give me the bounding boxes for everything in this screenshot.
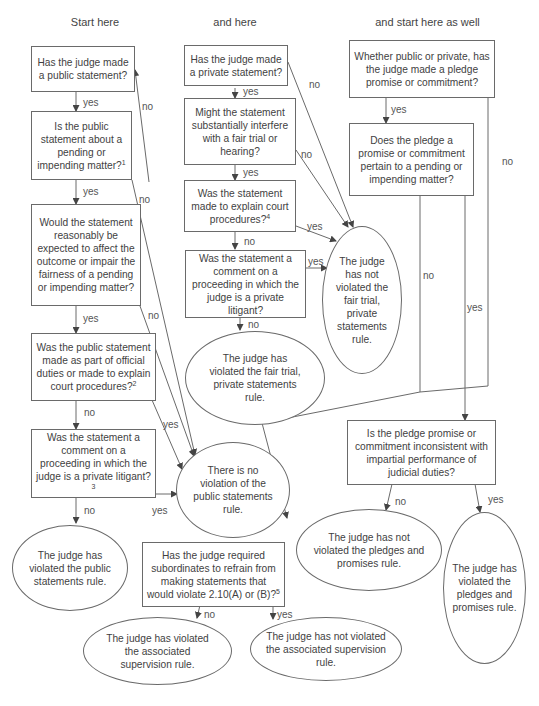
edge-label-yes: yes — [467, 302, 483, 313]
edge-label-no: no — [139, 194, 150, 205]
edge-label-yes: yes — [307, 221, 323, 232]
node-text: The judge has not violated the pledges a… — [313, 531, 425, 570]
node-text: Is the pledge promise or commitment inco… — [352, 427, 491, 479]
node-text: The judge has violated the pledges and p… — [452, 562, 517, 614]
edge-label-no: no — [142, 101, 153, 112]
supervision-violated-outcome: The judge has violated the associated su… — [83, 617, 232, 685]
node-text: Has the judge made a private statement? — [189, 53, 283, 79]
private-q2-interfere-fair-trial: Might the statement substantially interf… — [184, 98, 296, 165]
private-not-violated-outcome: The judge has not violated the fair tria… — [322, 226, 402, 374]
node-text: Is the public statement about a pending … — [36, 120, 127, 172]
edge-label-yes: yes — [308, 256, 324, 267]
supervision-q1-subordinates: Has the judge required subordinates to r… — [142, 542, 285, 607]
private-q1-made-private-statement: Has the judge made a private statement? — [184, 45, 288, 86]
public-q1-made-public-statement: Has the judge made a public statement? — [31, 46, 135, 92]
node-text: Was the statement a comment on a proceed… — [36, 431, 151, 496]
pledge-q3-inconsistent-impartial: Is the pledge promise or commitment inco… — [347, 420, 496, 485]
node-text: The judge has violated the associated su… — [102, 632, 213, 671]
private-q4-private-litigant: Was the statement a comment on a proceed… — [185, 250, 306, 318]
node-text: Does the pledge a promise or commitment … — [354, 134, 469, 186]
node-text: Was the public statement made as part of… — [36, 341, 151, 393]
edge-label-no: no — [309, 79, 320, 90]
pledge-q1-made-pledge: Whether public or private, has the judge… — [349, 40, 495, 98]
edge-label-yes: yes — [163, 419, 179, 430]
node-text: Has the judge made a public statement? — [36, 56, 130, 82]
public-q5-private-litigant: Was the statement a comment on a proceed… — [31, 429, 156, 498]
node-text: Was the statement a comment on a proceed… — [190, 252, 301, 317]
node-text: Might the statement substantially interf… — [189, 106, 291, 158]
pledge-not-violated-outcome: The judge has not violated the pledges a… — [296, 509, 442, 591]
edge-label-yes: yes — [152, 505, 168, 516]
edge-label-yes: yes — [243, 86, 259, 97]
node-text: Has the judge required subordinates to r… — [147, 549, 280, 601]
edge-label-yes: yes — [83, 186, 99, 197]
public-violated-outcome: The judge has violated the public statem… — [12, 525, 128, 611]
pledge-q2-pending-matter: Does the pledge a promise or commitment … — [349, 123, 474, 196]
edge-label-no: no — [84, 407, 95, 418]
edge-label-no: no — [301, 149, 312, 160]
node-text: The judge has violated the public statem… — [29, 549, 111, 588]
node-text: The judge has not violated the associate… — [265, 630, 387, 669]
edge-label-yes: yes — [277, 609, 293, 620]
public-no-violation-outcome: There is no violation of the public stat… — [176, 442, 290, 538]
edge-label-yes: yes — [391, 104, 407, 115]
node-text: The judge has violated the fair trial, p… — [204, 352, 306, 404]
public-q2-pending-matter: Is the public statement about a pending … — [31, 111, 132, 180]
edge-label-no: no — [148, 310, 159, 321]
node-text: There is no violation of the public stat… — [191, 464, 275, 516]
edge-label-no: no — [502, 156, 513, 167]
supervision-not-violated-outcome: The judge has not violated the associate… — [250, 617, 402, 681]
public-q4-official-duties: Was the public statement made as part of… — [31, 333, 156, 401]
edge-label-no: no — [248, 319, 259, 330]
pledge-violated-outcome: The judge has violated the pledges and p… — [443, 512, 526, 664]
edge-label-no: no — [423, 270, 434, 281]
edge-label-no: no — [395, 496, 406, 507]
edge-label-no: no — [84, 505, 95, 516]
edge-label-yes: yes — [488, 494, 504, 505]
edge-label-yes: yes — [243, 167, 259, 178]
node-text: Would the statement reasonably be expect… — [36, 216, 136, 294]
edge-label-no: no — [244, 236, 255, 247]
public-q3-affect-outcome: Would the statement reasonably be expect… — [31, 204, 141, 306]
private-q3-explain-procedures: Was the statement made to explain court … — [184, 180, 296, 232]
edge-label-yes: yes — [83, 97, 99, 108]
node-text: Whether public or private, has the judge… — [354, 50, 490, 89]
edge-label-yes: yes — [83, 313, 99, 324]
node-text: The judge has not violated the fair tria… — [331, 255, 393, 346]
node-text: Was the statement made to explain court … — [189, 187, 291, 226]
edge-label-no: no — [204, 609, 215, 620]
private-violated-outcome: The judge has violated the fair trial, p… — [185, 331, 325, 425]
